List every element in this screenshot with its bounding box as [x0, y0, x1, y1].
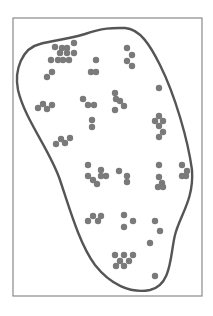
dot: [98, 213, 104, 219]
dot: [52, 44, 58, 50]
dot: [80, 96, 86, 102]
dot: [156, 134, 162, 140]
dot: [124, 58, 130, 64]
diagram-canvas: [0, 0, 213, 316]
dot: [147, 240, 153, 246]
dot: [117, 98, 123, 104]
dot: [44, 74, 50, 80]
dot: [156, 162, 162, 168]
dot: [160, 129, 166, 135]
dot: [121, 224, 127, 230]
dot: [53, 141, 59, 147]
dot: [64, 50, 70, 56]
dot: [89, 124, 95, 130]
dot: [112, 90, 118, 96]
dot: [66, 57, 72, 63]
dot: [112, 107, 118, 113]
dot: [49, 102, 55, 108]
dot: [89, 117, 95, 123]
dot: [98, 167, 104, 173]
dot: [152, 118, 158, 124]
dot: [113, 263, 119, 269]
dot: [103, 173, 109, 179]
dot: [130, 218, 136, 224]
dot: [93, 69, 99, 75]
dot: [57, 50, 63, 56]
frame-border: [13, 18, 202, 296]
dot: [160, 118, 166, 124]
dot: [179, 162, 185, 168]
dot: [121, 103, 127, 109]
region-boundary: [17, 28, 192, 291]
dot: [124, 45, 130, 51]
dot: [156, 174, 162, 180]
dot: [112, 252, 118, 258]
dot: [67, 135, 73, 141]
dot: [156, 123, 162, 129]
dot: [93, 57, 99, 63]
dot: [152, 273, 158, 279]
dot: [129, 63, 135, 69]
dot: [48, 57, 54, 63]
dot: [130, 252, 136, 258]
dot: [35, 105, 41, 111]
dot: [152, 218, 158, 224]
dot: [129, 52, 135, 58]
dot: [117, 258, 123, 264]
dot: [44, 106, 50, 112]
dot: [94, 181, 100, 187]
dot: [60, 57, 66, 63]
dot: [85, 162, 91, 168]
dot: [71, 40, 77, 46]
dot: [91, 102, 97, 108]
dot: [121, 252, 127, 258]
dot: [156, 85, 162, 91]
dot: [40, 101, 46, 107]
dot: [71, 50, 77, 56]
dot: [124, 179, 130, 185]
dot: [121, 263, 127, 269]
dot: [124, 173, 130, 179]
dot: [126, 258, 132, 264]
dot: [85, 218, 91, 224]
dot: [49, 69, 55, 75]
dot: [85, 173, 91, 179]
dot-group: [35, 40, 190, 279]
dot: [62, 140, 68, 146]
dot: [90, 213, 96, 219]
dot: [160, 184, 166, 190]
dot: [157, 228, 163, 234]
dot: [85, 102, 91, 108]
dot: [156, 113, 162, 119]
dot: [116, 168, 122, 174]
dot: [183, 173, 189, 179]
dot: [121, 212, 127, 218]
